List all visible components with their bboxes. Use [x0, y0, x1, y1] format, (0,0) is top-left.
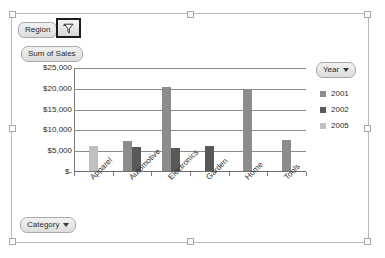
- resize-handle-bottom-center[interactable]: [187, 238, 194, 245]
- bar[interactable]: [243, 90, 252, 171]
- region-field-button[interactable]: Region: [18, 22, 57, 38]
- y-axis-tick-label: $20,000: [43, 85, 72, 93]
- legend-item-label: 2001: [331, 90, 349, 98]
- x-axis-tick-labels: ApparelAutomotiveElectronicsGardenHomeTo…: [74, 174, 306, 218]
- region-filter-button[interactable]: [56, 18, 81, 38]
- chevron-down-icon: [63, 223, 69, 227]
- legend-swatch-icon: [320, 123, 326, 129]
- legend-item[interactable]: 2002: [320, 102, 368, 118]
- resize-handle-bottom-left[interactable]: [9, 238, 16, 245]
- chevron-down-icon: [343, 68, 349, 72]
- sum-of-sales-field-button[interactable]: Sum of Sales: [21, 46, 83, 62]
- category-field-label: Category: [27, 221, 59, 229]
- legend-swatch-icon: [320, 107, 326, 113]
- resize-handle-top-right[interactable]: [364, 11, 371, 18]
- y-axis-tick-label: $-: [65, 168, 72, 176]
- resize-handle-bottom-right[interactable]: [364, 238, 371, 245]
- legend-item[interactable]: 2001: [320, 86, 368, 102]
- bar-group[interactable]: [229, 68, 268, 171]
- bar[interactable]: [123, 141, 132, 171]
- legend-item-label: 2005: [331, 122, 349, 130]
- resize-handle-top-center[interactable]: [187, 11, 194, 18]
- y-axis-tick-labels: $-$5,000$10,000$15,000$20,000$25,000: [16, 68, 72, 172]
- legend-items: 200120022005: [316, 86, 368, 134]
- bar[interactable]: [162, 87, 171, 171]
- sum-of-sales-label: Sum of Sales: [28, 50, 76, 58]
- region-field-label: Region: [25, 26, 50, 34]
- y-axis-tick-label: $10,000: [43, 126, 72, 134]
- y-axis-tick-label: $5,000: [48, 147, 72, 155]
- bar-group[interactable]: [267, 68, 306, 171]
- legend-item[interactable]: 2005: [320, 118, 368, 134]
- x-axis-tick-mark: [306, 172, 307, 176]
- y-axis-tick-label: $15,000: [43, 106, 72, 114]
- filter-funnel-icon: [62, 22, 75, 35]
- resize-handle-top-left[interactable]: [9, 11, 16, 18]
- pivot-chart-frame[interactable]: Region Sum of Sales $-$5,000$10,000$15,0…: [11, 13, 369, 243]
- legend-item-label: 2002: [331, 106, 349, 114]
- chart-legend: Year 200120022005: [316, 58, 368, 134]
- year-field-label: Year: [323, 66, 339, 74]
- category-field-button[interactable]: Category: [20, 217, 76, 233]
- legend-swatch-icon: [320, 91, 326, 97]
- y-axis-tick-label: $25,000: [43, 64, 72, 72]
- year-field-button[interactable]: Year: [316, 62, 356, 78]
